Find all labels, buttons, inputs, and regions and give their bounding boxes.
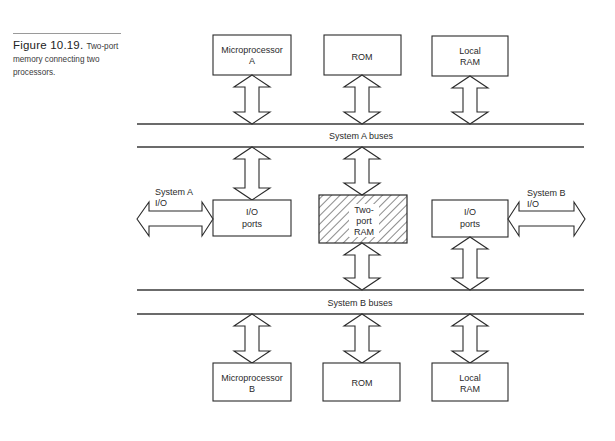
two-port-ram-label-2: port	[356, 216, 372, 226]
double-arrow-icon	[344, 75, 380, 124]
double-arrow-icon	[344, 243, 380, 290]
double-arrow-icon	[344, 147, 380, 195]
rom-a-box: ROM	[324, 35, 401, 75]
double-arrow-icon	[234, 147, 270, 200]
io-ports-a-box: I/O ports	[213, 200, 291, 236]
system-b-buses: System B buses	[137, 290, 584, 314]
io-ports-a-label-2: ports	[242, 219, 263, 229]
local-ram-a-label-1: Local	[459, 46, 481, 56]
local-ram-b-label-1: Local	[459, 373, 481, 383]
double-arrow-icon	[234, 75, 270, 124]
two-port-ram-box: Two- port RAM	[319, 195, 407, 243]
double-arrow-icon	[452, 76, 488, 124]
system-b-io-arrow: System B I/O	[508, 188, 585, 236]
system-a-io-label-1: System A	[155, 187, 193, 197]
system-b-io-label-2: I/O	[527, 199, 539, 209]
local-ram-a-box: Local RAM	[432, 36, 508, 76]
double-arrow-icon	[452, 237, 488, 290]
horizontal-double-arrow-icon	[137, 202, 213, 236]
microprocessor-a-box: Microprocessor A	[213, 35, 291, 75]
system-b-io-label-1: System B	[527, 188, 566, 198]
system-a-buses: System A buses	[137, 124, 584, 147]
local-ram-a-label-2: RAM	[460, 57, 480, 67]
two-port-memory-diagram: Microprocessor A ROM Local RAM System A …	[0, 0, 615, 441]
system-a-io-arrow: System A I/O	[137, 187, 213, 236]
microprocessor-b-label-1: Microprocessor	[221, 373, 283, 383]
double-arrow-icon	[344, 314, 380, 363]
microprocessor-b-label-2: B	[249, 384, 255, 394]
system-a-io-label-2: I/O	[155, 198, 167, 208]
horizontal-double-arrow-icon	[508, 202, 585, 236]
two-port-ram-label-1: Two-	[354, 205, 374, 215]
microprocessor-b-box: Microprocessor B	[213, 363, 291, 401]
system-b-buses-label: System B buses	[327, 298, 393, 308]
two-port-ram-label-3: RAM	[354, 227, 374, 237]
microprocessor-a-label-2: A	[249, 56, 255, 66]
io-ports-b-label-2: ports	[460, 219, 481, 229]
local-ram-b-label-2: RAM	[460, 384, 480, 394]
local-ram-b-box: Local RAM	[432, 363, 508, 401]
rom-b-box: ROM	[323, 363, 400, 401]
double-arrow-icon	[452, 314, 488, 363]
rom-b-label: ROM	[352, 378, 373, 388]
rom-a-label: ROM	[352, 52, 373, 62]
io-ports-a-label-1: I/O	[246, 207, 258, 217]
system-a-buses-label: System A buses	[329, 131, 394, 141]
microprocessor-a-label-1: Microprocessor	[221, 45, 283, 55]
io-ports-b-box: I/O ports	[432, 200, 508, 237]
io-ports-b-label-1: I/O	[464, 207, 476, 217]
double-arrow-icon	[234, 314, 270, 363]
